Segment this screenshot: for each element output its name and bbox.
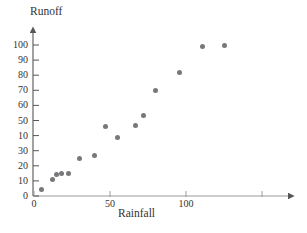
y-axis-ticks	[33, 45, 39, 196]
data-point	[59, 171, 64, 176]
y-axis-title: Runoff	[30, 5, 62, 17]
x-tick-label: 100	[174, 198, 198, 209]
y-tick-label: 100	[2, 39, 28, 50]
data-point	[153, 88, 158, 93]
y-tick-label: 10	[2, 175, 28, 186]
x-tick-label: 50	[98, 198, 122, 209]
y-tick-label: 90	[2, 54, 28, 65]
data-point	[50, 177, 55, 182]
y-tick-label: 60	[2, 99, 28, 110]
y-tick-label: 30	[2, 145, 28, 156]
x-tick-label: 0	[22, 198, 46, 209]
scatter-plot-figure: Runoff Rainfall 0102030105060708090100 0…	[0, 0, 307, 233]
data-point	[77, 156, 82, 161]
data-point	[115, 135, 120, 140]
y-tick-label: 50	[2, 115, 28, 126]
data-point	[222, 43, 227, 48]
y-tick-label: 20	[2, 160, 28, 171]
plot-axes	[0, 0, 307, 233]
y-tick-label: 10	[2, 130, 28, 141]
data-point	[133, 123, 138, 128]
x-axis-title: Rainfall	[118, 207, 155, 219]
data-point	[103, 124, 108, 129]
y-tick-label: 80	[2, 69, 28, 80]
y-tick-label: 70	[2, 84, 28, 95]
